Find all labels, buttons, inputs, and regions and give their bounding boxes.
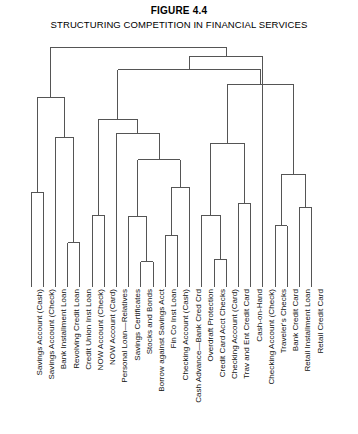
leaf-label: Checking Account (Card) [230, 289, 239, 379]
leaf-label-text: Borrow against Savings Acct [157, 289, 166, 392]
leaf-label: Overdraft Protection [206, 289, 215, 362]
leaf-label: Cash-on-Hand [255, 289, 264, 342]
leaf-label: Savings Account (Cash) [35, 289, 44, 375]
leaf-label: Checking Account (Check) [267, 289, 276, 384]
leaf-label-text: Retail Installment Loan [303, 289, 312, 372]
leaf-label: Checking Account (Cash) [181, 289, 190, 380]
leaf-label-text: Cash Advance—Bank Cred Crd [194, 289, 203, 403]
leaf-label-text: Credit Card Acct Checks [218, 289, 227, 377]
leaf-label: Retail Installment Loan [303, 289, 312, 372]
figure-title: STRUCTURING COMPETITION IN FINANCIAL SER… [0, 19, 358, 31]
leaf-label: Cash Advance—Bank Cred Crd [194, 289, 203, 403]
leaf-label-text: NOW Account (Card) [108, 289, 117, 365]
leaf-label: NOW Account (Check) [96, 289, 105, 370]
leaf-label-text: Credit Union Inst Loan [84, 289, 93, 370]
leaf-label-text: Stocks and Bonds [145, 289, 154, 354]
leaf-label: Bank Credit Card [291, 289, 300, 351]
leaf-label: NOW Account (Card) [108, 289, 117, 365]
leaf-label: Personal Loan—Relatives [120, 289, 129, 383]
leaf-label-text: Retail Credit Card [316, 289, 325, 353]
leaf-label-text: Trav and Ent Credit Card [242, 289, 251, 379]
leaf-labels: Savings Account (Cash)Savings Account (C… [0, 289, 358, 434]
dendrogram-plot [0, 39, 358, 289]
leaf-label-text: Traveler's Checks [279, 289, 288, 353]
leaf-label: Trav and Ent Credit Card [242, 289, 251, 379]
leaf-label-text: Savings Account (Check) [47, 289, 56, 380]
figure-number: FIGURE 4.4 [0, 5, 358, 17]
leaf-label-text: Bank Credit Card [291, 289, 300, 351]
leaf-label-text: Bank Installment Loan [59, 289, 68, 369]
leaf-label-text: Personal Loan—Relatives [120, 289, 129, 383]
leaf-label: Savings Certificates [133, 289, 142, 361]
leaf-label-text: Savings Certificates [133, 289, 142, 361]
leaf-label-text: Revolving Credit Loan [72, 289, 81, 369]
leaf-label-text: Checking Account (Cash) [181, 289, 190, 380]
leaf-label: Retail Credit Card [316, 289, 325, 353]
leaf-label-text: Fin Co Inst Loan [169, 289, 178, 349]
leaf-label-text: Checking Account (Check) [267, 289, 276, 384]
leaf-label-text: Savings Account (Cash) [35, 289, 44, 375]
leaf-label-text: NOW Account (Check) [96, 289, 105, 370]
figure-dendrogram: FIGURE 4.4 STRUCTURING COMPETITION IN FI… [0, 5, 358, 434]
leaf-label: Traveler's Checks [279, 289, 288, 353]
leaf-label: Borrow against Savings Acct [157, 289, 166, 392]
leaf-label: Credit Card Acct Checks [218, 289, 227, 377]
leaf-label: Fin Co Inst Loan [169, 289, 178, 349]
leaf-label: Stocks and Bonds [145, 289, 154, 354]
leaf-label-text: Overdraft Protection [206, 289, 215, 362]
leaf-label-text: Cash-on-Hand [255, 289, 264, 342]
leaf-label: Savings Account (Check) [47, 289, 56, 380]
dendrogram-svg [0, 39, 358, 289]
leaf-label: Revolving Credit Loan [72, 289, 81, 369]
leaf-label: Credit Union Inst Loan [84, 289, 93, 370]
leaf-label-text: Checking Account (Card) [230, 289, 239, 379]
leaf-label: Bank Installment Loan [59, 289, 68, 369]
